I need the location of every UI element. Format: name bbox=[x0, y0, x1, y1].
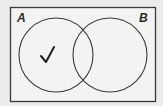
set-b-label: B bbox=[139, 11, 148, 25]
set-a-label: A bbox=[17, 11, 26, 25]
universal-set-rectangle bbox=[11, 8, 156, 102]
